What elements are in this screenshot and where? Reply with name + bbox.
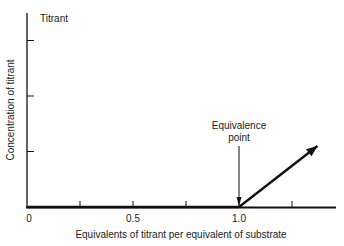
y-axis-label: Concentration of titrant [5, 59, 16, 160]
axes [26, 13, 336, 208]
series-label-titrant: Titrant [40, 13, 68, 24]
series-segment [239, 146, 317, 207]
x-axis-label: Equivalents of titrant per equivalent of… [75, 229, 287, 240]
x-tick-label: 0 [26, 213, 32, 224]
x-tick-label: 0.5 [126, 213, 140, 224]
x-tick-label: 1.0 [232, 213, 246, 224]
equivalence-label-line2: point [228, 132, 250, 143]
titration-chart: 00.51.0 Titrant Equivalence point Equiva… [0, 0, 344, 246]
equivalence-label-line1: Equivalence [212, 120, 267, 131]
